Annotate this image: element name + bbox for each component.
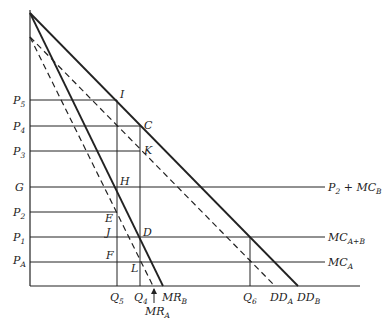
label-g: G	[15, 181, 24, 194]
label-dda: DDA	[269, 291, 294, 306]
label-p3: P3	[12, 145, 25, 160]
label-p4: P4	[12, 120, 25, 135]
point-j: J	[104, 226, 111, 239]
label-pa: PA	[12, 254, 26, 269]
mra-arrow-head-icon	[151, 288, 157, 294]
label-mc-a: MCA	[327, 256, 354, 271]
label-ddb: DDB	[296, 291, 321, 306]
point-k: K	[143, 144, 153, 157]
marginal-revenue-curve-a	[30, 37, 153, 286]
label-p2: P2	[12, 206, 25, 221]
label-p5: P5	[12, 94, 25, 109]
point-d: D	[142, 226, 152, 239]
label-q5: Q5	[110, 291, 124, 306]
point-l: L	[130, 262, 138, 275]
point-i: I	[119, 88, 125, 101]
point-h: H	[119, 175, 130, 188]
label-mc-a-plus-b: MCA+B	[327, 231, 365, 246]
label-q6: Q6	[243, 291, 257, 306]
point-e: E	[104, 212, 113, 225]
label-p2-plus-mcb: P2 + MCB	[327, 181, 382, 196]
label-mrb: MRB	[161, 291, 188, 306]
point-f: F	[105, 249, 114, 262]
demand-curve-b	[30, 13, 298, 286]
point-c: C	[144, 119, 153, 132]
label-q4: Q4	[134, 291, 148, 306]
price-discrimination-diagram: P5 P4 P3 G P2 P1 PA Q5 Q4 MRB Q6 DDA DDB…	[0, 0, 386, 331]
label-mra: MRA	[144, 305, 171, 320]
demand-curve-a	[30, 37, 275, 286]
label-p1: P1	[12, 231, 25, 246]
